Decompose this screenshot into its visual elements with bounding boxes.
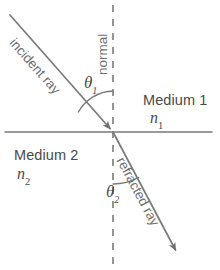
refractive-index-2-subscript: 2 [25,176,30,187]
refractive-index-1-label: n1 [150,110,163,130]
normal-label: normal [96,34,110,75]
angle-of-refraction-label: θ2 [106,183,119,203]
refractive-index-2-symbol: n [17,165,25,182]
refraction-diagram: incident ray normal refracted ray Medium… [0,0,220,270]
theta-1-subscript: 1 [92,85,97,96]
refraction-diagram-canvas [0,0,220,270]
refractive-index-1-subscript: 1 [158,120,163,131]
angle-of-incidence-label: θ1 [84,74,97,94]
medium-2-label: Medium 2 [14,148,78,163]
medium-1-label: Medium 1 [143,93,207,108]
refractive-index-1-symbol: n [150,109,158,126]
theta-2-subscript: 2 [114,194,119,205]
refractive-index-2-label: n2 [17,166,30,186]
